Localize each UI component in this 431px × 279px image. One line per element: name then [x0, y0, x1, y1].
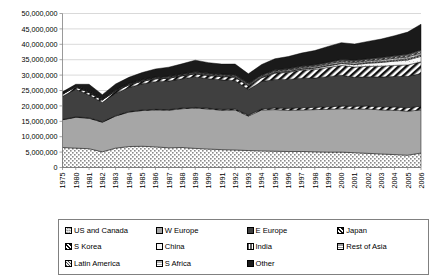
y-tick-label: 5,000,000 — [26, 148, 58, 157]
legend-swatch-s-korea — [65, 243, 72, 250]
y-tick-label: 0 — [54, 163, 58, 172]
x-tick-label: 2003 — [377, 173, 386, 189]
legend-item-china[interactable]: China — [156, 239, 247, 256]
legend-swatch-india — [247, 243, 254, 250]
y-tick-label: 35,000,000 — [22, 55, 58, 64]
x-tick-label: 1994 — [257, 173, 266, 189]
x-tick-label: 1998 — [311, 173, 320, 189]
y-tick-label: 25,000,000 — [22, 86, 58, 95]
legend-item-other[interactable]: Other — [247, 255, 338, 272]
x-tick-label: 1983 — [111, 173, 120, 189]
legend-swatch-s-africa — [156, 260, 163, 267]
x-tick-label: 1990 — [204, 173, 213, 189]
legend-label-other: Other — [256, 260, 275, 268]
legend-label-s-korea: S Korea — [74, 243, 101, 251]
y-tick-label: 50,000,000 — [22, 9, 58, 18]
legend-item-latin-america[interactable]: Latin America — [65, 255, 156, 272]
stacked-area-chart: 05,000,00010,000,00015,000,00020,000,000… — [0, 0, 431, 279]
y-tick-label: 45,000,000 — [22, 25, 58, 34]
x-tick-label: 1995 — [271, 173, 280, 189]
legend-item-us-and-canada[interactable]: US and Canada — [65, 222, 156, 239]
legend-swatch-latin-america — [65, 260, 72, 267]
legend-item-s-africa[interactable]: S Africa — [156, 255, 247, 272]
x-tick-label: 1997 — [297, 173, 306, 189]
x-tick-label: 1986 — [151, 173, 160, 189]
legend-swatch-w-europe — [156, 227, 163, 234]
x-tick-label: 1993 — [244, 173, 253, 189]
y-tick-label: 15,000,000 — [22, 117, 58, 126]
x-tick-label: 2006 — [417, 173, 426, 189]
legend-item-w-europe[interactable]: W Europe — [156, 222, 247, 239]
legend-swatch-other — [247, 260, 254, 267]
legend-label-s-africa: S Africa — [165, 260, 191, 268]
x-tick-label: 2000 — [337, 173, 346, 189]
y-axis-tick-labels: 05,000,00010,000,00015,000,00020,000,000… — [22, 9, 58, 172]
x-tick-label: 1985 — [138, 173, 147, 189]
x-tick-label: 1991 — [218, 173, 227, 189]
x-tick-label: 1999 — [324, 173, 333, 189]
legend-label-latin-america: Latin America — [74, 260, 120, 268]
legend-label-japan: Japan — [346, 227, 367, 235]
legend-label-rest-of-asia: Rest of Asia — [346, 243, 387, 251]
x-tick-label: 1980 — [72, 173, 81, 189]
y-tick-label: 10,000,000 — [22, 132, 58, 141]
legend-swatch-rest-of-asia — [337, 243, 344, 250]
legend-label-w-europe: W Europe — [165, 227, 199, 235]
legend-item-s-korea[interactable]: S Korea — [65, 239, 156, 256]
x-tick-label: 1981 — [85, 173, 94, 189]
legend-label-china: China — [165, 243, 185, 251]
chart-legend: US and CanadaW EuropeE EuropeJapanS Kore… — [58, 219, 429, 275]
legend-label-us-and-canada: US and Canada — [74, 227, 128, 235]
legend-label-e-europe: E Europe — [256, 227, 288, 235]
x-tick-label: 1988 — [178, 173, 187, 189]
x-tick-label: 1989 — [191, 173, 200, 189]
legend-label-india: India — [256, 243, 272, 251]
x-tick-label: 2004 — [390, 173, 399, 189]
x-tick-label: 2002 — [364, 173, 373, 189]
y-tick-label: 40,000,000 — [22, 40, 58, 49]
legend-item-rest-of-asia[interactable]: Rest of Asia — [337, 239, 428, 256]
legend-item-e-europe[interactable]: E Europe — [247, 222, 338, 239]
x-tick-label: 2005 — [404, 173, 413, 189]
legend-item-india[interactable]: India — [247, 239, 338, 256]
x-axis-tick-labels: 1975198019811982198319841985198619871988… — [58, 173, 426, 189]
y-tick-label: 30,000,000 — [22, 71, 58, 80]
x-tick-label: 2001 — [350, 173, 359, 189]
legend-swatch-us-and-canada — [65, 227, 72, 234]
x-tick-label: 1982 — [98, 173, 107, 189]
legend-swatch-e-europe — [247, 227, 254, 234]
y-tick-label: 20,000,000 — [22, 102, 58, 111]
x-tick-label: 1996 — [284, 173, 293, 189]
legend-item-japan[interactable]: Japan — [337, 222, 428, 239]
x-tick-label: 1987 — [165, 173, 174, 189]
x-tick-label: 1992 — [231, 173, 240, 189]
legend-swatch-china — [156, 243, 163, 250]
x-tick-label: 1975 — [58, 173, 67, 189]
legend-swatch-japan — [337, 227, 344, 234]
x-tick-label: 1984 — [125, 173, 134, 189]
